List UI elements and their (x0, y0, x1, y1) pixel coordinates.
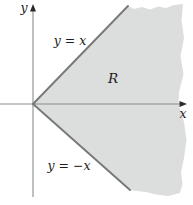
y-axis-label: y (19, 0, 28, 15)
region-between-lines-figure: y x y = x y = −x R (0, 0, 193, 205)
x-axis-label: x (179, 106, 186, 121)
upper-line-equation-label: y = x (53, 33, 87, 48)
y-axis-arrow-icon (30, 4, 36, 12)
figure-canvas: y x y = x y = −x R (0, 0, 193, 205)
lower-line-equation-label: y = −x (46, 158, 90, 173)
region-label: R (107, 70, 118, 86)
